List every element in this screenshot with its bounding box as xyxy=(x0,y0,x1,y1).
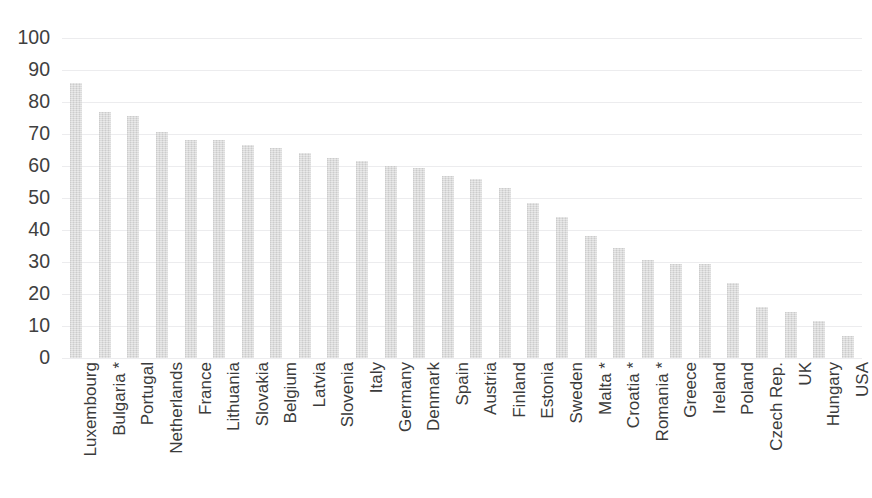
bar xyxy=(185,140,197,358)
x-axis-tick-label: UK xyxy=(797,362,814,386)
x-axis-tick-label: Denmark xyxy=(425,362,442,431)
x-axis-tick-label: Malta * xyxy=(597,362,614,415)
bar xyxy=(727,283,739,358)
bar xyxy=(356,161,368,358)
x-axis-tick-label: Ireland xyxy=(711,362,728,414)
x-axis-tick-label: Greece xyxy=(682,362,699,418)
gridline xyxy=(62,358,862,359)
y-axis-tick-label: 40 xyxy=(28,220,50,240)
bar xyxy=(127,116,139,358)
y-axis-tick-label: 100 xyxy=(17,28,50,48)
x-axis-tick-label: Latvia xyxy=(311,362,328,407)
y-axis-tick-label: 70 xyxy=(28,124,50,144)
bar xyxy=(556,217,568,358)
bar xyxy=(270,148,282,358)
x-axis-tick-label: Finland xyxy=(511,362,528,418)
x-axis-tick-label: Czech Rep. xyxy=(768,362,785,451)
x-axis-tick-label: Lithuania xyxy=(225,362,242,431)
x-axis-tick-label: Slovenia xyxy=(339,362,356,427)
y-axis-tick-label: 90 xyxy=(28,60,50,80)
x-axis-tick-label: Belgium xyxy=(282,362,299,423)
bar xyxy=(327,158,339,358)
bar xyxy=(413,168,425,358)
x-axis-tick-label: Romania * xyxy=(654,362,671,441)
bar xyxy=(785,312,797,358)
x-axis-tick-label: Spain xyxy=(454,362,471,405)
x-axis-tick-label: Italy xyxy=(368,362,385,393)
bar xyxy=(670,264,682,358)
bar xyxy=(813,321,825,358)
bar xyxy=(699,264,711,358)
bar xyxy=(242,145,254,358)
bar xyxy=(213,140,225,358)
x-axis-labels: LuxembourgBulgaria *PortugalNetherlandsF… xyxy=(62,362,868,498)
bar xyxy=(99,112,111,358)
x-axis-tick-label: USA xyxy=(854,362,871,397)
plot-area xyxy=(62,38,862,358)
bar xyxy=(299,153,311,358)
chart-title-remnant xyxy=(120,0,420,7)
bar xyxy=(842,336,854,358)
bar xyxy=(70,83,82,358)
bar xyxy=(527,203,539,358)
bar xyxy=(442,176,454,358)
x-axis-tick-label: Germany xyxy=(397,362,414,432)
y-axis: 0102030405060708090100 xyxy=(0,0,62,400)
bar xyxy=(642,260,654,358)
bar xyxy=(385,166,397,358)
bar xyxy=(585,236,597,358)
y-axis-tick-label: 30 xyxy=(28,252,50,272)
y-axis-tick-label: 80 xyxy=(28,92,50,112)
bar xyxy=(156,132,168,358)
y-axis-tick-label: 50 xyxy=(28,188,50,208)
bar xyxy=(499,188,511,358)
bar xyxy=(470,179,482,358)
x-axis-tick-label: Estonia xyxy=(539,362,556,419)
y-axis-tick-label: 0 xyxy=(39,348,50,368)
x-axis-tick-label: France xyxy=(197,362,214,415)
x-axis-tick-label: Slovakia xyxy=(254,362,271,426)
y-axis-tick-label: 20 xyxy=(28,284,50,304)
x-axis-tick-label: Portugal xyxy=(139,362,156,425)
x-axis-tick-label: Bulgaria * xyxy=(111,362,128,436)
x-axis-tick-label: Sweden xyxy=(568,362,585,423)
x-axis-tick-label: Hungary xyxy=(825,362,842,426)
bar xyxy=(756,307,768,358)
y-axis-tick-label: 10 xyxy=(28,316,50,336)
x-axis-tick-label: Luxembourg xyxy=(82,362,99,457)
x-axis-tick-label: Croatia * xyxy=(625,362,642,428)
bar xyxy=(613,248,625,358)
bar-series xyxy=(62,38,862,358)
x-axis-tick-label: Austria xyxy=(482,362,499,415)
x-axis-tick-label: Poland xyxy=(739,362,756,415)
y-axis-tick-label: 60 xyxy=(28,156,50,176)
x-axis-tick-label: Netherlands xyxy=(168,362,185,454)
